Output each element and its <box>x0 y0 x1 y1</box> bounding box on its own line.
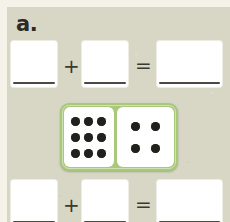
worksheet-page: a. + = <box>0 0 230 222</box>
answer-rule <box>84 82 126 84</box>
domino-pip <box>71 133 80 142</box>
domino-pip <box>97 117 106 126</box>
answer-box-addend-2[interactable] <box>82 180 128 222</box>
domino-pip <box>84 149 93 158</box>
answer-box-addend-1[interactable] <box>11 180 57 222</box>
answer-box-sum[interactable] <box>157 180 222 222</box>
answer-box-sum[interactable] <box>157 41 222 87</box>
equation-row-top: + = <box>7 41 230 89</box>
domino-tile <box>60 103 178 171</box>
domino-half-right <box>117 107 175 167</box>
answer-box-addend-1[interactable] <box>11 41 57 87</box>
domino-pip <box>84 117 93 126</box>
answer-rule <box>159 221 220 222</box>
problem-letter: a. <box>16 14 37 35</box>
domino-pip <box>131 144 140 153</box>
domino-pip <box>97 149 106 158</box>
domino-pip <box>151 122 160 131</box>
domino-pip <box>71 117 80 126</box>
plus-operator: + <box>63 56 80 76</box>
equals-operator: = <box>135 194 152 214</box>
equals-operator: = <box>135 55 152 75</box>
problem-panel: a. + = <box>7 7 230 222</box>
domino-pip <box>151 144 160 153</box>
answer-rule <box>13 82 55 84</box>
answer-rule <box>13 221 55 222</box>
plus-operator: + <box>63 195 80 215</box>
answer-box-addend-2[interactable] <box>82 41 128 87</box>
domino-half-left <box>64 107 114 167</box>
domino-pip <box>97 133 106 142</box>
domino-pip <box>71 149 80 158</box>
answer-rule <box>159 82 220 84</box>
domino-pip <box>131 122 140 131</box>
answer-rule <box>84 221 126 222</box>
domino-pip <box>84 133 93 142</box>
equation-row-bottom: + = <box>7 180 230 222</box>
